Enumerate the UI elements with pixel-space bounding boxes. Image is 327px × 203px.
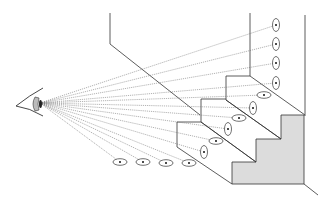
sight-lines [40, 25, 276, 163]
eye-icon [16, 88, 43, 116]
wall-markers [273, 19, 280, 90]
middle-step-edge [201, 99, 226, 122]
staircase-side-face [232, 115, 304, 184]
floor-edge [304, 184, 318, 195]
bottom-step-edge [177, 122, 201, 147]
tread-markers [209, 92, 271, 145]
staircase-vision-diagram [0, 0, 327, 203]
left-wall-edge [110, 13, 200, 115]
riser-markers [201, 102, 257, 159]
floor-markers [113, 159, 196, 167]
